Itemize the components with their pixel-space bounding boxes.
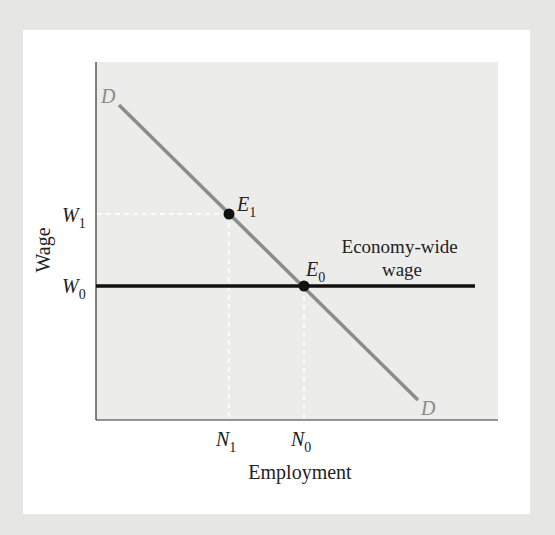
point-e1 [224, 209, 235, 220]
x-tick-n1: N1 [215, 428, 236, 455]
y-axis-title: Wage [32, 227, 55, 272]
y-tick-w0: W0 [62, 275, 86, 302]
y-tick-w1: W1 [62, 204, 86, 231]
x-tick-n0: N0 [290, 428, 311, 455]
demand-start-label: D [100, 85, 116, 107]
x-axis-title: Employment [248, 461, 352, 484]
demand-end-label: D [420, 397, 436, 419]
labor-market-diagram: D D E1 E0 Economy-wide wage W1 W0 N1 N0 … [0, 0, 555, 535]
point-e0 [299, 281, 310, 292]
